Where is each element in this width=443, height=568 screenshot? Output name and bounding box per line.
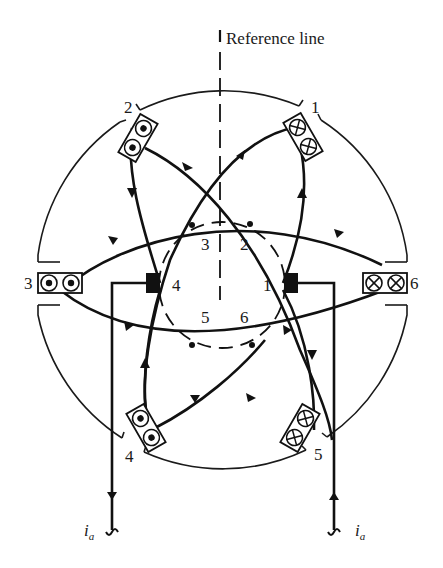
- arrow-right-icon: [334, 229, 344, 238]
- direction-arrows: [107, 150, 344, 500]
- wire-3-to-6-lower: [60, 290, 385, 331]
- arrow-up-icon: [140, 358, 150, 368]
- inner-label-4: 4: [172, 276, 181, 295]
- inner-label-6: 6: [240, 308, 249, 327]
- brush-right: [284, 273, 298, 293]
- inner-label-2: 2: [240, 235, 249, 254]
- arrow-down-right-icon: [246, 393, 256, 402]
- slot-4: [126, 404, 165, 452]
- slot-label-4: 4: [125, 447, 134, 466]
- slot-1: [283, 113, 322, 161]
- stator-poles: [38, 91, 407, 469]
- slot-label-2: 2: [124, 98, 133, 117]
- arrow-right-icon: [108, 236, 118, 245]
- armature-winding-diagram: Reference line: [0, 0, 443, 568]
- pole-lower-right: [327, 305, 407, 437]
- current-label-left: ia: [84, 521, 95, 542]
- reference-line-label: Reference line: [226, 29, 325, 48]
- slot-label-1: 1: [311, 98, 320, 117]
- pole-lower-left: [38, 305, 122, 438]
- wire-4-up-right: [155, 340, 265, 428]
- pole-upper-left: [38, 122, 120, 262]
- wire-1-to-brush1: [283, 145, 304, 283]
- slot-label-6: 6: [410, 274, 419, 293]
- slot-label-3: 3: [24, 274, 33, 293]
- current-label-right: ia: [355, 521, 366, 542]
- slot-6: [363, 273, 407, 293]
- inner-label-1: 1: [263, 276, 272, 295]
- slot-label-5: 5: [314, 445, 323, 464]
- wire-brush4-to-4: [145, 290, 160, 410]
- arrow-up-icon: [297, 188, 307, 198]
- arrow-down-right-icon: [182, 162, 193, 171]
- inner-label-5: 5: [201, 308, 210, 327]
- brush-left: [146, 273, 160, 293]
- pole-bottom: [144, 450, 306, 469]
- arrow-down-icon: [107, 492, 117, 500]
- slot-3: [38, 273, 82, 293]
- pole-upper-right: [321, 120, 407, 262]
- arrow-up-icon: [329, 492, 339, 500]
- inner-label-3: 3: [201, 235, 210, 254]
